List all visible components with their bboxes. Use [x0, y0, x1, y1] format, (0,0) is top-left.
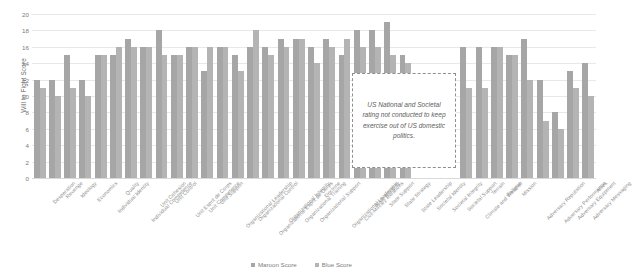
- y-tick-label: 14: [22, 60, 29, 67]
- bar-blue: [466, 88, 472, 178]
- bar-group: [171, 14, 183, 178]
- legend-item[interactable]: Maroon Score: [251, 261, 297, 268]
- bar-group: [247, 14, 259, 178]
- y-tick-label: 16: [22, 43, 29, 50]
- y-tick-label: 6: [26, 125, 29, 132]
- annotation-callout: US National and Societal rating not cond…: [352, 73, 456, 168]
- y-tick-label: 20: [22, 11, 29, 18]
- bar-blue: [40, 88, 46, 178]
- bar-group: [567, 14, 579, 178]
- bar-group: [232, 14, 244, 178]
- bar-blue: [512, 55, 518, 178]
- bar-group: [491, 14, 503, 178]
- bar-blue: [70, 88, 76, 178]
- bar-blue: [314, 63, 320, 178]
- y-tick-label: 0: [26, 175, 29, 182]
- legend-label: Blue Score: [322, 261, 352, 268]
- legend-label: Maroon Score: [258, 261, 297, 268]
- category-axis-labels: DesperationRevengeIdeologyEconomicsIndiv…: [32, 180, 596, 258]
- y-axis-title: Will to Fight Score: [20, 16, 27, 156]
- bar-blue: [253, 30, 259, 178]
- bar-blue: [207, 47, 213, 178]
- bar-group: [339, 14, 351, 178]
- bar-group: [125, 14, 137, 178]
- bar-blue: [284, 47, 290, 178]
- category-label: Organizational Leadership: [244, 180, 293, 229]
- bar-group: [552, 14, 564, 178]
- y-tick-label: 18: [22, 27, 29, 34]
- bar-group: [262, 14, 274, 178]
- bar-blue: [588, 96, 594, 178]
- bar-group: [49, 14, 61, 178]
- legend-swatch-icon: [315, 263, 319, 267]
- bar-blue: [543, 121, 549, 178]
- bar-group: [79, 14, 91, 178]
- bar-group: [217, 14, 229, 178]
- bar-group: [582, 14, 594, 178]
- bar-group: [293, 14, 305, 178]
- bar-blue: [85, 96, 91, 178]
- y-tick-label: 12: [22, 76, 29, 83]
- bar-blue: [162, 55, 168, 178]
- bar-blue: [223, 47, 229, 178]
- legend-item[interactable]: Blue Score: [315, 261, 352, 268]
- bar-group: [537, 14, 549, 178]
- bar-group: [323, 14, 335, 178]
- bar-blue: [146, 47, 152, 178]
- bar-group: [140, 14, 152, 178]
- category-label: Civil-Military Relations: [363, 180, 405, 222]
- bar-blue: [177, 55, 183, 178]
- bar-group: [308, 14, 320, 178]
- bar-blue: [55, 96, 61, 178]
- bar-blue: [116, 47, 122, 178]
- category-label: Economics: [96, 180, 119, 203]
- bar-group: [506, 14, 518, 178]
- bar-blue: [329, 47, 335, 178]
- y-tick-label: 8: [26, 109, 29, 116]
- bar-blue: [299, 39, 305, 178]
- legend-swatch-icon: [251, 263, 255, 267]
- bar-group: [95, 14, 107, 178]
- bar-group: [64, 14, 76, 178]
- bar-blue: [192, 47, 198, 178]
- bar-group: [201, 14, 213, 178]
- bar-blue: [482, 88, 488, 178]
- bar-group: [521, 14, 533, 178]
- bar-blue: [573, 88, 579, 178]
- gridline: 0: [32, 178, 596, 179]
- annotation-callout-text: US National and Societal rating not cond…: [359, 100, 449, 141]
- bar-group: [110, 14, 122, 178]
- bar-blue: [238, 71, 244, 178]
- bar-blue: [558, 129, 564, 178]
- y-tick-label: 4: [26, 142, 29, 149]
- bar-group: [476, 14, 488, 178]
- y-tick-label: 2: [26, 158, 29, 165]
- bar-blue: [344, 39, 350, 178]
- bar-group: [156, 14, 168, 178]
- category-label: Fatigue: [505, 180, 522, 197]
- plot-area: 02468101214161820: [32, 14, 596, 178]
- bar-group: [186, 14, 198, 178]
- bars-layer: [32, 14, 596, 178]
- bar-blue: [527, 80, 533, 178]
- bar-group: [460, 14, 472, 178]
- bar-blue: [131, 47, 137, 178]
- bar-blue: [101, 55, 107, 178]
- bar-group: [34, 14, 46, 178]
- bar-group: [278, 14, 290, 178]
- y-tick-label: 10: [22, 93, 29, 100]
- bar-blue: [268, 55, 274, 178]
- bar-blue: [497, 47, 503, 178]
- chart-legend: Maroon ScoreBlue Score: [0, 261, 603, 268]
